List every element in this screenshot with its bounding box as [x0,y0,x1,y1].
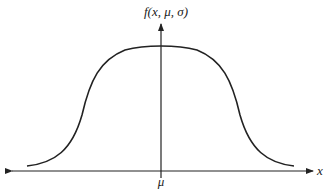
y-axis-label: f(x, μ, σ) [144,4,188,19]
distribution-diagram: f(x, μ, σ) x μ [0,0,326,192]
mean-label: μ [157,174,165,189]
x-axis-label: x [316,163,323,178]
